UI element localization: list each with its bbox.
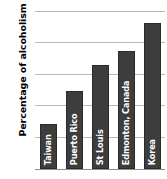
bar-category-label: Korea (148, 139, 156, 165)
bar: Puerto Rico (66, 91, 83, 169)
plot-area: 0510152025TaiwanPuerto RicoSt LouisEdmon… (35, 11, 165, 169)
bar: Taiwan (40, 124, 57, 170)
bar-category-label: Puerto Rico (70, 113, 78, 165)
y-axis-title: Percentage of alcoholism (16, 0, 30, 140)
bar: Korea (144, 23, 161, 169)
bar-chart: Percentage of alcoholism 0510152025Taiwa… (0, 0, 167, 179)
bar: Edmonton, Canada (118, 51, 135, 169)
bar-category-label: Edmonton, Canada (122, 80, 130, 165)
bar-category-label: Taiwan (44, 134, 52, 165)
gridline (35, 11, 165, 12)
bar: St Louis (92, 65, 109, 169)
bar-category-label: St Louis (96, 129, 104, 165)
